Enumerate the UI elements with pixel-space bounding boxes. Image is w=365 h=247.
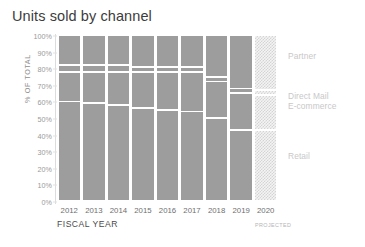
- y-axis-tick-mark: [53, 202, 57, 203]
- bar-segment-2017-retail[interactable]: [181, 112, 203, 200]
- bar-2013[interactable]: [83, 36, 105, 202]
- bar-2016[interactable]: [157, 36, 179, 202]
- chart-root: Units sold by channel % OF TOTAL 0%10%20…: [0, 0, 365, 247]
- bar-segment-2014-retail[interactable]: [108, 106, 130, 201]
- plot-area: [57, 36, 278, 202]
- y-axis-tick-80: 80%: [38, 65, 52, 74]
- bar-2020[interactable]: [255, 36, 277, 202]
- x-axis-tick-2020: 2020: [253, 206, 278, 215]
- bar-2015[interactable]: [132, 36, 154, 202]
- bar-segment-2015-e-commerce[interactable]: [132, 73, 154, 108]
- y-axis-tick-mark: [53, 85, 57, 86]
- y-axis-tick-30: 30%: [38, 148, 52, 157]
- bar-segment-2014-partner[interactable]: [108, 36, 130, 64]
- y-axis-tick-0: 0%: [42, 198, 52, 207]
- bar-segment-2012-partner[interactable]: [59, 36, 81, 64]
- legend-label-partner: Partner: [288, 51, 316, 61]
- x-axis-tick-2017: 2017: [180, 206, 205, 215]
- bar-segment-2012-direct-mail[interactable]: [59, 66, 81, 71]
- x-axis-tick-2014: 2014: [106, 206, 131, 215]
- y-axis-tick-mark: [53, 69, 57, 70]
- bar-segment-2018-retail[interactable]: [206, 119, 228, 200]
- legend-label-retail: Retail: [288, 151, 310, 161]
- bar-segment-2020-retail[interactable]: [255, 131, 277, 201]
- bar-segment-2016-e-commerce[interactable]: [157, 73, 179, 110]
- bar-segment-2017-e-commerce[interactable]: [181, 73, 203, 111]
- x-axis-tick-2016: 2016: [155, 206, 180, 215]
- legend-label-direct-mail: Direct Mail: [288, 91, 329, 101]
- bar-segment-2017-direct-mail[interactable]: [181, 68, 203, 71]
- bar-segment-2017-partner[interactable]: [181, 36, 203, 66]
- y-axis-tick-mark: [53, 36, 57, 37]
- bar-segment-2019-retail[interactable]: [230, 131, 252, 201]
- bar-segment-2018-e-commerce[interactable]: [206, 82, 228, 117]
- projected-annotation: PROJECTED: [255, 222, 291, 228]
- bar-2019[interactable]: [230, 36, 252, 202]
- x-axis-tick-2015: 2015: [131, 206, 156, 215]
- bar-segment-2013-partner[interactable]: [83, 36, 105, 64]
- y-axis-tick-mark: [53, 152, 57, 153]
- bar-segment-2020-direct-mail[interactable]: [255, 91, 277, 94]
- bar-segment-2015-partner[interactable]: [132, 36, 154, 66]
- bar-segment-2019-partner[interactable]: [230, 36, 252, 88]
- y-axis-tick-50: 50%: [38, 115, 52, 124]
- bar-segment-2016-direct-mail[interactable]: [157, 68, 179, 71]
- y-axis-tick-mark: [53, 52, 57, 53]
- bar-segment-2015-direct-mail[interactable]: [132, 68, 154, 71]
- y-axis-tick-mark: [53, 185, 57, 186]
- x-axis-tick-2019: 2019: [229, 206, 254, 215]
- bar-2017[interactable]: [181, 36, 203, 202]
- y-axis-tick-mark: [53, 168, 57, 169]
- y-axis-tick-labels: 0%10%20%30%40%50%60%70%80%90%100%: [0, 0, 52, 247]
- legend-label-e-commerce: E-commerce: [288, 101, 336, 111]
- bar-segment-2018-partner[interactable]: [206, 36, 228, 76]
- bar-segment-2013-direct-mail[interactable]: [83, 66, 105, 71]
- y-axis-tick-mark: [53, 119, 57, 120]
- bar-2014[interactable]: [108, 36, 130, 202]
- bar-segment-2013-e-commerce[interactable]: [83, 73, 105, 103]
- x-axis-tick-2012: 2012: [57, 206, 82, 215]
- y-axis-tick-100: 100%: [34, 32, 52, 41]
- bar-segment-2020-partner[interactable]: [255, 36, 277, 89]
- bar-segment-2018-direct-mail[interactable]: [206, 78, 228, 81]
- bar-segment-2013-retail[interactable]: [83, 104, 105, 200]
- bar-segment-2012-retail[interactable]: [59, 102, 81, 200]
- bar-segment-2019-e-commerce[interactable]: [230, 94, 252, 129]
- y-axis-tick-10: 10%: [38, 181, 52, 190]
- bar-segment-2016-retail[interactable]: [157, 111, 179, 201]
- bar-2012[interactable]: [59, 36, 81, 202]
- y-axis-tick-60: 60%: [38, 98, 52, 107]
- bar-segment-2012-e-commerce[interactable]: [59, 73, 81, 101]
- bar-segment-2014-direct-mail[interactable]: [108, 66, 130, 71]
- bar-segment-2015-retail[interactable]: [132, 109, 154, 200]
- y-axis-tick-20: 20%: [38, 164, 52, 173]
- bar-segment-2019-direct-mail[interactable]: [230, 89, 252, 92]
- bar-2018[interactable]: [206, 36, 228, 202]
- x-axis-label: FISCAL YEAR: [57, 219, 118, 229]
- y-axis-tick-mark: [53, 102, 57, 103]
- x-axis-tick-2013: 2013: [82, 206, 107, 215]
- y-axis-tick-70: 70%: [38, 81, 52, 90]
- y-axis-tick-90: 90%: [38, 48, 52, 57]
- bar-segment-2014-e-commerce[interactable]: [108, 73, 130, 105]
- x-axis-tick-2018: 2018: [204, 206, 229, 215]
- bar-segment-2016-partner[interactable]: [157, 36, 179, 66]
- y-axis-tick-mark: [53, 135, 57, 136]
- bar-segment-2020-e-commerce[interactable]: [255, 96, 277, 129]
- y-axis-tick-40: 40%: [38, 131, 52, 140]
